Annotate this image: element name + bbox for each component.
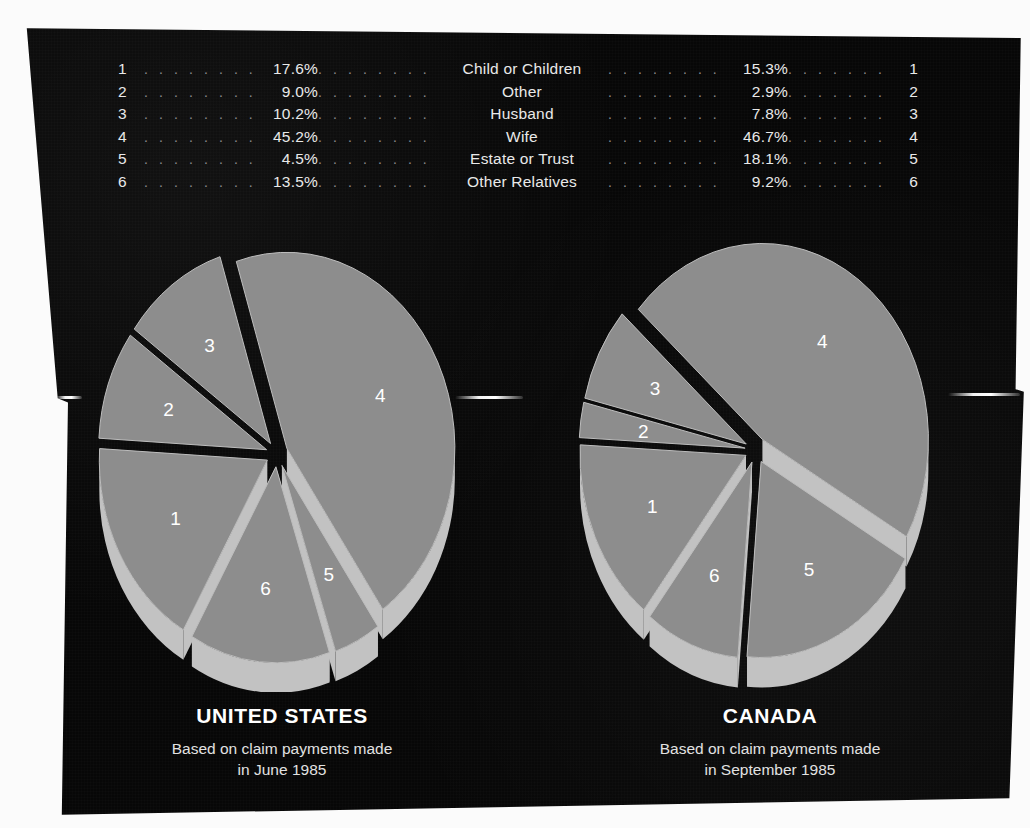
legend-ca-percent: 7.8%: [726, 103, 788, 125]
legend-index-left: 1: [118, 58, 144, 80]
legend-category: Estate or Trust: [436, 148, 608, 170]
dot-leader: . . . . . . . . . .: [144, 149, 256, 171]
dot-leader: . . . . . . . . . .: [144, 172, 256, 194]
pie-slice-number: 4: [375, 385, 386, 406]
caption-line-1: Based on claim payments made: [560, 738, 980, 759]
legend-category: Child or Children: [436, 58, 608, 80]
legend-category: Other: [436, 81, 608, 103]
chart-caption-united-states: Based on claim payments made in June 198…: [72, 738, 492, 780]
legend-ca-percent: 2.9%: [726, 81, 788, 103]
dot-leader: . . . . . . . . . .: [318, 59, 436, 81]
scanned-page: 1 . . . . . . . . . . 17.6% . . . . . . …: [0, 0, 1030, 828]
pie-slice-number: 5: [323, 564, 334, 585]
legend-index-left: 5: [118, 148, 144, 170]
legend-ca-percent: 46.7%: [726, 126, 788, 148]
dot-leader: . . . . . . . . . .: [318, 172, 436, 194]
pie-slice-number: 2: [163, 399, 174, 420]
pie-chart-canada: 123456: [560, 222, 980, 692]
dot-leader: . . . . . . . . . .: [144, 59, 256, 81]
legend-us-percent: 13.5%: [256, 171, 318, 193]
pie-slice-number: 5: [804, 559, 815, 580]
pie-slice-number: 6: [260, 578, 271, 599]
legend-index-left: 2: [118, 81, 144, 103]
legend-us-percent: 4.5%: [256, 148, 318, 170]
dot-leader: . . . . . . . . . .: [318, 149, 436, 171]
chart-panel-canada: 123456 CANADA Based on claim payments ma…: [560, 222, 980, 782]
legend-index-left: 6: [118, 171, 144, 193]
legend-ca-percent: 9.2%: [726, 171, 788, 193]
legend-index-right: 2: [892, 81, 918, 103]
legend-table: 1 . . . . . . . . . . 17.6% . . . . . . …: [118, 58, 918, 193]
pie-slice-number: 2: [638, 421, 649, 442]
dot-leader: . . . . . . . . . .: [608, 149, 726, 171]
pie-slice-number: 4: [817, 331, 828, 352]
legend-us-percent: 17.6%: [256, 58, 318, 80]
pie-slice-number: 3: [650, 378, 661, 399]
dot-leader: . . . . . . . . . .: [788, 59, 892, 81]
chart-panel-united-states: 123456 UNITED STATES Based on claim paym…: [72, 222, 492, 782]
legend-us-percent: 9.0%: [256, 81, 318, 103]
caption-line-1: Based on claim payments made: [72, 738, 492, 759]
chart-title-united-states: UNITED STATES: [72, 704, 492, 728]
dot-leader: . . . . . . . . . .: [788, 149, 892, 171]
legend-row: 6 . . . . . . . . . . 13.5% . . . . . . …: [118, 171, 918, 194]
legend-ca-percent: 18.1%: [726, 148, 788, 170]
dot-leader: . . . . . . . . . .: [608, 172, 726, 194]
legend-category: Wife: [436, 126, 608, 148]
legend-index-right: 5: [892, 148, 918, 170]
legend-index-left: 4: [118, 126, 144, 148]
legend-row: 4 . . . . . . . . . . 45.2% . . . . . . …: [118, 126, 918, 149]
dot-leader: . . . . . . . . . .: [608, 82, 726, 104]
chart-caption-canada: Based on claim payments made in Septembe…: [560, 738, 980, 780]
legend-index-right: 4: [892, 126, 918, 148]
dot-leader: . . . . . . . . . .: [608, 127, 726, 149]
pie-chart-united-states: 123456: [72, 222, 492, 692]
caption-line-2: in September 1985: [560, 759, 980, 780]
dot-leader: . . . . . . . . . .: [144, 127, 256, 149]
dot-leader: . . . . . . . . . .: [788, 127, 892, 149]
chart-title-canada: CANADA: [560, 704, 980, 728]
pie-slice-number: 3: [204, 335, 215, 356]
legend-row: 3 . . . . . . . . . . 10.2% . . . . . . …: [118, 103, 918, 126]
dot-leader: . . . . . . . . . .: [608, 59, 726, 81]
legend-index-right: 3: [892, 103, 918, 125]
legend-row: 1 . . . . . . . . . . 17.6% . . . . . . …: [118, 58, 918, 81]
legend-row: 5 . . . . . . . . . . 4.5% . . . . . . .…: [118, 148, 918, 171]
dot-leader: . . . . . . . . . .: [144, 104, 256, 126]
caption-line-2: in June 1985: [72, 759, 492, 780]
legend-index-left: 3: [118, 103, 144, 125]
pie-slice-number: 6: [709, 565, 720, 586]
dot-leader: . . . . . . . . . .: [788, 104, 892, 126]
legend-category: Other Relatives: [436, 171, 608, 193]
dot-leader: . . . . . . . . . .: [318, 127, 436, 149]
dot-leader: . . . . . . . . . .: [788, 82, 892, 104]
dot-leader: . . . . . . . . . .: [144, 82, 256, 104]
dot-leader: . . . . . . . . . .: [788, 172, 892, 194]
legend-row: 2 . . . . . . . . . . 9.0% . . . . . . .…: [118, 81, 918, 104]
legend-index-right: 1: [892, 58, 918, 80]
pie-slice-number: 1: [170, 508, 181, 529]
legend-ca-percent: 15.3%: [726, 58, 788, 80]
legend-category: Husband: [436, 103, 608, 125]
dot-leader: . . . . . . . . . .: [318, 82, 436, 104]
dot-leader: . . . . . . . . . .: [318, 104, 436, 126]
pie-slice-number: 1: [647, 496, 658, 517]
legend-us-percent: 45.2%: [256, 126, 318, 148]
dot-leader: . . . . . . . . . .: [608, 104, 726, 126]
legend-us-percent: 10.2%: [256, 103, 318, 125]
legend-index-right: 6: [892, 171, 918, 193]
